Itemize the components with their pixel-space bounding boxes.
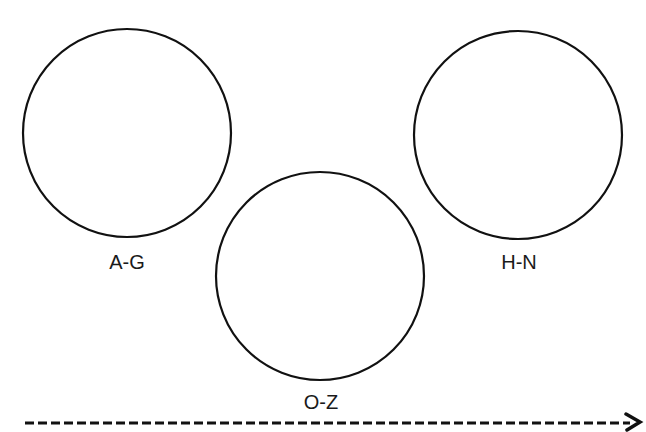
group-h-n: H-N	[414, 31, 622, 273]
dashed-arrow	[25, 414, 640, 430]
label-h-n: H-N	[501, 251, 537, 273]
label-a-g: A-G	[109, 251, 145, 273]
group-o-z: O-Z	[216, 172, 424, 413]
circle-o-z	[216, 172, 424, 380]
group-a-g: A-G	[23, 29, 231, 273]
circle-h-n	[414, 31, 622, 239]
label-o-z: O-Z	[304, 391, 338, 413]
diagram-canvas: A-G H-N O-Z	[0, 0, 646, 432]
circle-a-g	[23, 29, 231, 237]
